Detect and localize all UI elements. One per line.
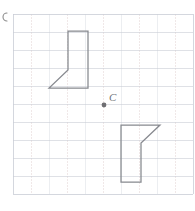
worksheet-figure-canvas: C — [0, 0, 195, 211]
page-corner-mark-icon — [3, 13, 7, 21]
center-of-rotation-label: C — [109, 91, 117, 103]
image-polygon — [121, 125, 160, 182]
preimage-polygon — [49, 31, 88, 88]
center-of-rotation-dot — [102, 103, 107, 108]
geometry-figure: C — [0, 0, 195, 211]
